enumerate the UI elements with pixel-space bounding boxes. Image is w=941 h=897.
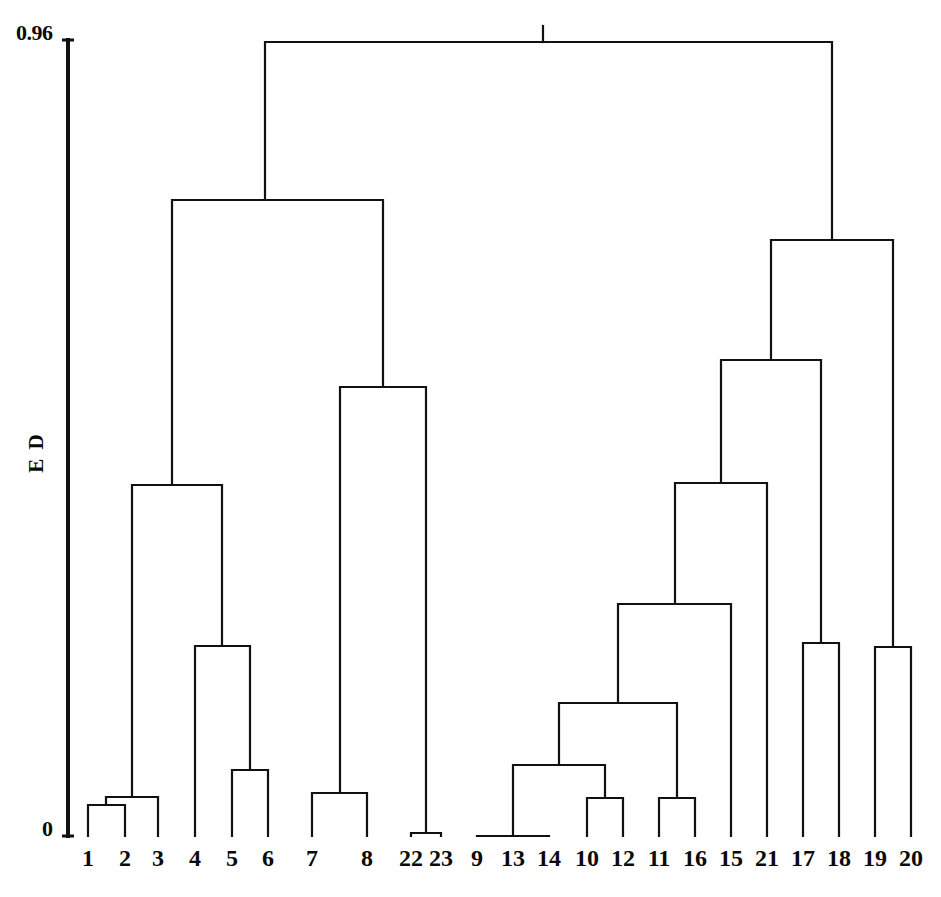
- dendrogram-link-m8: [340, 387, 426, 833]
- leaf-label: 22: [399, 845, 423, 872]
- leaf-label: 17: [791, 845, 815, 872]
- leaf-label: 8: [361, 845, 373, 872]
- dendrogram-link-m14: [659, 798, 695, 836]
- dendrogram-link-m17: [675, 483, 767, 836]
- leaf-label: 2: [119, 845, 131, 872]
- y-axis-title: E D: [24, 408, 49, 498]
- leaf-label: 11: [648, 845, 671, 872]
- dendrogram-link-m6: [312, 793, 367, 836]
- leaf-label: 6: [262, 845, 274, 872]
- leaf-label: 10: [575, 845, 599, 872]
- leaf-label: 9: [471, 845, 483, 872]
- dendrogram-link-m21: [771, 240, 893, 647]
- dendrogram-tree: [88, 26, 911, 836]
- leaf-label: 14: [537, 845, 561, 872]
- dendrogram-link-m16: [618, 604, 731, 836]
- leaf-label: 1: [82, 845, 94, 872]
- dendrogram-plot: [0, 0, 941, 897]
- leaf-label: 21: [755, 845, 779, 872]
- y-axis-max-label: 0.96: [16, 20, 53, 46]
- y-axis-min-label: 0: [42, 816, 53, 842]
- leaf-label: 13: [501, 845, 525, 872]
- dendrogram-link-m2: [106, 797, 158, 836]
- leaf-label: 5: [226, 845, 238, 872]
- leaf-label: 3: [152, 845, 164, 872]
- leaf-label: 7: [306, 845, 318, 872]
- dendrogram-link-m19: [721, 360, 821, 643]
- dendrogram-link-m22: [265, 42, 832, 240]
- dendrogram-figure: 0.96 0 E D 12345678222391314101211161521…: [0, 0, 941, 897]
- dendrogram-link-m4: [195, 646, 250, 836]
- leaf-label: 23: [429, 845, 453, 872]
- leaf-label: 15: [719, 845, 743, 872]
- dendrogram-link-m15: [559, 703, 677, 798]
- dendrogram-link-m12: [587, 798, 623, 836]
- leaf-label: 12: [611, 845, 635, 872]
- leaf-label: 16: [683, 845, 707, 872]
- y-axis: [62, 38, 74, 838]
- dendrogram-link-m1: [88, 805, 125, 836]
- dendrogram-link-m5: [132, 485, 222, 797]
- dendrogram-link-m18: [803, 643, 839, 836]
- dendrogram-link-m13: [513, 765, 605, 836]
- leaf-label: 19: [863, 845, 887, 872]
- leaf-label-row: 1234567822239131410121116152117181920: [0, 845, 941, 887]
- dendrogram-link-m20: [875, 647, 911, 836]
- dendrogram-link-m9: [172, 200, 383, 485]
- leaf-label: 20: [899, 845, 923, 872]
- dendrogram-link-m3: [232, 770, 268, 836]
- leaf-label: 4: [189, 845, 201, 872]
- leaf-label: 18: [827, 845, 851, 872]
